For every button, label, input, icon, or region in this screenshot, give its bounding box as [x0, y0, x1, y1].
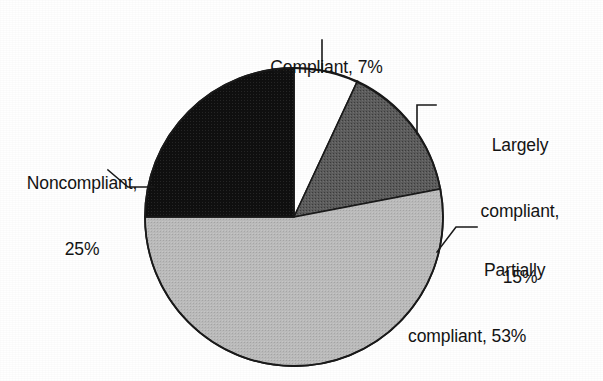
pie-label-noncompliant-line-2: 25% — [2, 238, 162, 260]
pie-label-noncompliant-line-1: Noncompliant, — [2, 172, 162, 194]
pie-label-compliant-line-1: Compliant, 7% — [50, 56, 603, 78]
pie-label-partially-compliant: Partially compliant, 53% — [470, 215, 603, 381]
pie-chart: Compliant, 7% Largely compliant, 15% Par… — [0, 0, 603, 381]
pie-label-noncompliant: Noncompliant, 25% — [2, 128, 162, 304]
pie-label-partially-compliant-line-1: Partially — [470, 259, 603, 281]
pie-label-partially-compliant-line-2: compliant, 53% — [408, 325, 603, 347]
pie-label-largely-compliant-line-1: Largely — [440, 134, 600, 156]
